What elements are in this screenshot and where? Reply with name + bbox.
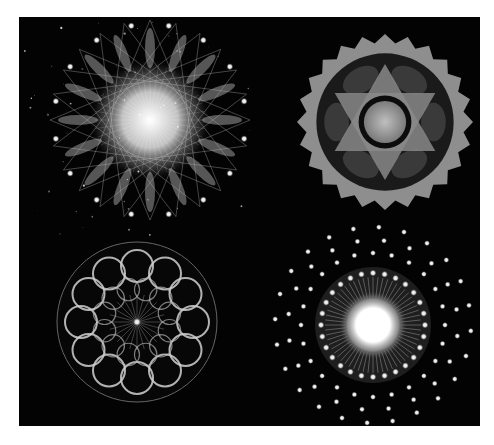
mandala-artwork: [19, 17, 480, 426]
star-burst-mandala: [50, 20, 250, 220]
ring-lattice-mandala: [57, 242, 217, 402]
hexagram-gear-mandala: [297, 34, 473, 210]
glowing-dot-mandala: [272, 224, 474, 426]
artwork-panel: [19, 17, 480, 426]
